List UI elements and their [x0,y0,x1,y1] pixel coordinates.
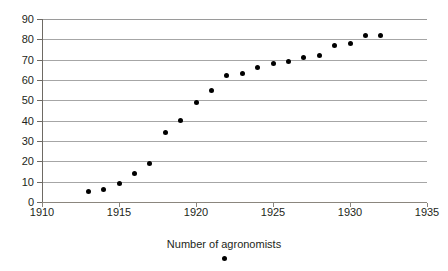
y-tick-mark [37,60,42,61]
data-point [363,33,368,38]
y-tick-label: 20 [22,156,34,167]
gridline [42,161,427,162]
gridline [42,121,427,122]
y-tick-label: 90 [22,14,34,25]
gridline [42,60,427,61]
x-axis-line [42,202,427,203]
legend-marker-icon [222,256,227,261]
gridline [42,39,427,40]
y-tick-mark [37,182,42,183]
data-point [117,181,122,186]
x-tick-mark [273,203,274,207]
x-tick-mark [350,203,351,207]
gridline [42,182,427,183]
data-point [348,41,353,46]
gridline [42,141,427,142]
plot-area [42,19,427,202]
y-tick-label: 70 [22,55,34,66]
scatter-chart: 0102030405060708090 19101915192019251930… [0,0,448,271]
x-tick-label: 1935 [415,207,439,218]
x-tick-label: 1925 [261,207,285,218]
y-tick-mark [37,100,42,101]
x-tick-mark [427,203,428,207]
x-axis-title: Number of agronomists [0,238,448,251]
data-point [132,171,137,176]
y-tick-mark [37,121,42,122]
y-axis-line [42,19,43,203]
x-tick-mark [119,203,120,207]
x-tick-label: 1915 [107,207,131,218]
y-tick-label: 50 [22,95,34,106]
y-tick-label: 60 [22,75,34,86]
data-point [317,53,322,58]
x-tick-mark [42,203,43,207]
y-tick-label: 30 [22,136,34,147]
y-tick-label: 80 [22,34,34,45]
data-point [271,61,276,66]
y-tick-mark [37,80,42,81]
x-tick-label: 1910 [30,207,54,218]
x-tick-mark [196,203,197,207]
data-point [209,88,214,93]
x-tick-label: 1930 [338,207,362,218]
y-tick-mark [37,161,42,162]
y-tick-label: 10 [22,177,34,188]
gridline [42,19,427,20]
gridline [42,100,427,101]
y-tick-mark [37,39,42,40]
y-tick-label: 40 [22,116,34,127]
gridline [42,80,427,81]
data-point [332,43,337,48]
data-point [194,100,199,105]
y-tick-mark [37,19,42,20]
y-tick-mark [37,141,42,142]
x-tick-label: 1920 [184,207,208,218]
